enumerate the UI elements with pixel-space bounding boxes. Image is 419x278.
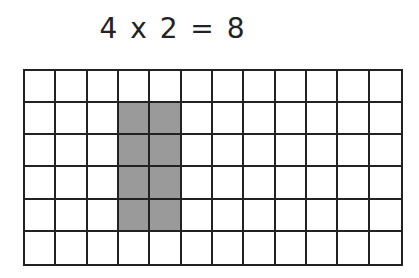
grid-cell [25, 167, 56, 199]
grid-cell [88, 167, 119, 199]
grid-cell [276, 103, 307, 135]
grid-cell [307, 200, 338, 232]
grid-cell [88, 200, 119, 232]
grid-cell [182, 103, 213, 135]
grid-cell [244, 167, 275, 199]
grid-cell [25, 103, 56, 135]
grid-cell [244, 232, 275, 264]
grid-cell [276, 232, 307, 264]
grid-cell [244, 135, 275, 167]
grid-cell [244, 200, 275, 232]
grid-cell [244, 103, 275, 135]
grid-cell [56, 71, 87, 103]
grid-cell [182, 232, 213, 264]
grid-cell [370, 167, 401, 199]
grid-cell [88, 135, 119, 167]
grid-cell [307, 103, 338, 135]
grid-cell-shaded [150, 135, 181, 167]
grid-cell [338, 200, 369, 232]
grid-cell [56, 232, 87, 264]
grid-cell [276, 200, 307, 232]
grid-cell [25, 71, 56, 103]
grid-cell [307, 135, 338, 167]
grid-cell-shaded [119, 167, 150, 199]
grid-cell [370, 71, 401, 103]
grid-cell [88, 232, 119, 264]
grid-cell [56, 135, 87, 167]
grid-cell [276, 135, 307, 167]
grid-cell [56, 103, 87, 135]
multiplication-array-grid [23, 69, 403, 266]
grid-cell-shaded [150, 200, 181, 232]
grid-cell [244, 71, 275, 103]
grid-cell [182, 135, 213, 167]
grid-cell [338, 103, 369, 135]
grid-cell [25, 200, 56, 232]
grid-cell [88, 71, 119, 103]
grid-cell [213, 200, 244, 232]
grid-cell [370, 135, 401, 167]
grid-cell [119, 232, 150, 264]
grid-cell [338, 232, 369, 264]
grid-cell-shaded [150, 167, 181, 199]
grid-cell [370, 103, 401, 135]
grid-cell [213, 103, 244, 135]
grid-cell [370, 200, 401, 232]
grid-cell [276, 71, 307, 103]
grid-cell [338, 135, 369, 167]
grid-cell [182, 167, 213, 199]
grid-cell-shaded [150, 103, 181, 135]
grid-cell [338, 167, 369, 199]
grid-cell [56, 200, 87, 232]
grid-cell [25, 135, 56, 167]
grid-cell [182, 200, 213, 232]
grid-cell [56, 167, 87, 199]
grid-cell [213, 135, 244, 167]
grid-cell [150, 232, 181, 264]
grid-cell [213, 232, 244, 264]
grid-cell [213, 167, 244, 199]
grid-cell-shaded [119, 200, 150, 232]
grid-cell [119, 71, 150, 103]
grid-cell [307, 71, 338, 103]
grid-cell [276, 167, 307, 199]
grid-cell [25, 232, 56, 264]
grid-cell [150, 71, 181, 103]
grid-cell [182, 71, 213, 103]
grid-cell [307, 167, 338, 199]
grid-cell [338, 71, 369, 103]
grid-cell [307, 232, 338, 264]
grid-cell [370, 232, 401, 264]
grid-cell [213, 71, 244, 103]
grid-cell [88, 103, 119, 135]
grid-cell-shaded [119, 103, 150, 135]
grid-cell-shaded [119, 135, 150, 167]
equation-title: 4 x 2 = 8 [0, 12, 346, 45]
